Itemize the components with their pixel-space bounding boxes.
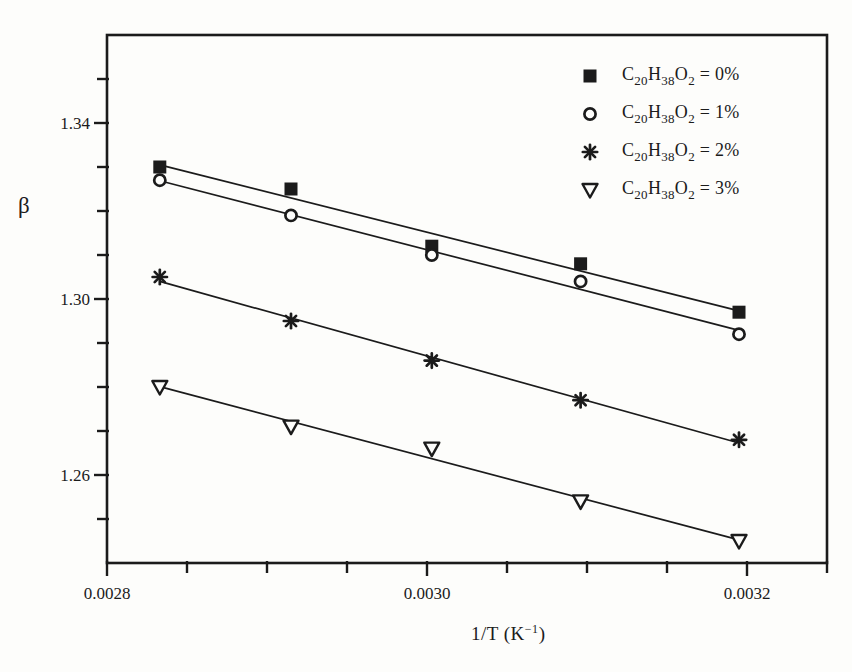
legend-label-text: C [622, 102, 634, 122]
legend-label-text: O [675, 178, 688, 198]
legend-label-subscript: 20 [634, 148, 648, 163]
marker-open-triangle-down-icon [424, 443, 439, 457]
legend-label-subscript: 2 [688, 72, 695, 87]
marker-open-triangle-down-icon [732, 535, 747, 549]
legend-label-text: H [648, 178, 661, 198]
legend-label: C20H38O2 = 3% [622, 178, 740, 203]
y-tick-label: 1.26 [60, 466, 90, 485]
legend-label: C20H38O2 = 0% [622, 64, 740, 89]
legend-label-subscript: 38 [661, 186, 675, 201]
legend-label-text: O [675, 64, 688, 84]
x-tick-label: 0.0028 [84, 584, 131, 603]
legend-label: C20H38O2 = 2% [622, 140, 740, 165]
marker-asterisk-icon [153, 270, 167, 284]
legend-marker-cell [570, 63, 610, 89]
marker-open-triangle-down-icon [583, 184, 598, 198]
legend-label-text: = 3% [695, 178, 740, 198]
y-tick-label: 1.30 [60, 290, 90, 309]
legend-label-subscript: 2 [688, 148, 695, 163]
legend-label-text: = 0% [695, 64, 740, 84]
fit-line [160, 281, 739, 443]
marker-open-circle-icon [285, 210, 296, 221]
legend-label-subscript: 20 [634, 110, 648, 125]
marker-asterisk-icon [425, 353, 439, 367]
marker-open-triangle-down-icon [573, 495, 588, 509]
legend-label-text: O [675, 140, 688, 160]
marker-open-circle-icon [575, 276, 586, 287]
legend-label-subscript: 38 [661, 110, 675, 125]
legend-row-0: C20H38O2 = 0% [570, 57, 740, 95]
legend-label: C20H38O2 = 1% [622, 102, 740, 127]
legend-marker-svg [578, 102, 602, 126]
legend-label-subscript: 2 [688, 110, 695, 125]
marker-open-triangle-down-icon [284, 421, 299, 435]
marker-open-circle-icon [426, 249, 437, 260]
y-axis-label: β [18, 194, 30, 217]
legend-label-text: O [675, 102, 688, 122]
legend-label-text: H [648, 64, 661, 84]
marker-filled-square-icon [584, 70, 597, 83]
marker-filled-square-icon [733, 306, 746, 319]
legend-row-3: C20H38O2 = 3% [570, 171, 740, 209]
legend-label-text: H [648, 140, 661, 160]
legend-row-1: C20H38O2 = 1% [570, 95, 740, 133]
marker-asterisk-icon [573, 393, 587, 407]
y-tick-label: 1.34 [60, 114, 90, 133]
x-tick-label: 0.0030 [404, 584, 451, 603]
legend-label-text: C [622, 64, 634, 84]
x-axis-label: 1/T (K−1) [471, 622, 545, 645]
legend-label-text: C [622, 178, 634, 198]
marker-open-circle-icon [733, 329, 744, 340]
marker-open-circle-icon [154, 175, 165, 186]
legend-label-subscript: 20 [634, 186, 648, 201]
legend-marker-cell [570, 139, 610, 165]
legend-label-text: H [648, 102, 661, 122]
x-axis-label-text: ) [539, 623, 546, 644]
legend-label-text: C [622, 140, 634, 160]
legend-marker-svg [578, 178, 602, 202]
legend-label-text: = 1% [695, 102, 740, 122]
marker-asterisk-icon [732, 433, 746, 447]
fit-line [160, 387, 739, 540]
legend-label-subscript: 38 [661, 148, 675, 163]
legend-marker-cell [570, 177, 610, 203]
legend-label-text: = 2% [695, 140, 740, 160]
marker-asterisk-icon [583, 145, 597, 159]
legend-label-subscript: 2 [688, 186, 695, 201]
marker-asterisk-icon [284, 314, 298, 328]
marker-filled-square-icon [153, 161, 166, 174]
legend-marker-svg [578, 64, 602, 88]
legend-row-2: C20H38O2 = 2% [570, 133, 740, 171]
marker-open-circle-icon [584, 108, 595, 119]
x-axis-label-text: 1/T (K [471, 623, 525, 644]
legend-marker-cell [570, 101, 610, 127]
legend-label-subscript: 38 [661, 72, 675, 87]
figure-root: 0.00280.00300.00321.261.301.34 β 1/T (K−… [0, 0, 852, 672]
marker-filled-square-icon [285, 183, 298, 196]
marker-filled-square-icon [574, 257, 587, 270]
legend-label-subscript: 20 [634, 72, 648, 87]
legend-marker-svg [578, 140, 602, 164]
x-axis-label-superscript: −1 [525, 622, 539, 636]
x-tick-label: 0.0032 [724, 584, 771, 603]
legend: C20H38O2 = 0%C20H38O2 = 1%C20H38O2 = 2%C… [570, 57, 740, 209]
